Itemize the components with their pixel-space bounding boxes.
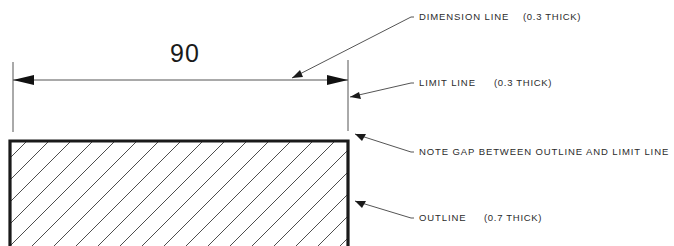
hatch-line xyxy=(208,131,323,246)
hatch-line xyxy=(252,131,367,246)
leader-arrow-icon-outline xyxy=(355,201,366,208)
hatch-line xyxy=(54,131,169,246)
callout-spec-limit-line: (0.3 THICK) xyxy=(494,77,552,88)
hatch-line xyxy=(0,131,37,246)
hatch-line xyxy=(142,131,257,246)
hatch-line xyxy=(0,131,103,246)
drawing-svg: 90 DIMENSION LINE(0.3 THICK)LIMIT LINE(0… xyxy=(0,0,674,246)
hatch-line xyxy=(186,131,301,246)
hatch-line xyxy=(164,131,279,246)
callout-outline: OUTLINE(0.7 THICK) xyxy=(355,201,542,223)
leader-line-dimension-line xyxy=(292,17,414,78)
technical-drawing-canvas: 90 DIMENSION LINE(0.3 THICK)LIMIT LINE(0… xyxy=(0,0,674,246)
hatch-line xyxy=(274,131,389,246)
hatch-line xyxy=(10,131,125,246)
callout-spec-outline: (0.7 THICK) xyxy=(484,212,542,223)
callout-label-limit-line: LIMIT LINE xyxy=(419,77,476,88)
dimension-value: 90 xyxy=(170,39,200,67)
dimension-arrow-left-icon xyxy=(13,75,34,85)
hatch-line xyxy=(0,131,15,246)
hatch-line xyxy=(230,131,345,246)
callout-label-note-gap: NOTE GAP BETWEEN OUTLINE AND LIMIT LINE xyxy=(419,146,669,157)
callout-dimension-line: DIMENSION LINE(0.3 THICK) xyxy=(292,11,581,78)
callout-spec-dimension-line: (0.3 THICK) xyxy=(523,11,581,22)
leader-arrow-icon-limit-line xyxy=(350,92,361,99)
callout-label-outline: OUTLINE xyxy=(419,212,466,223)
leader-arrow-icon-dimension-line xyxy=(292,70,303,78)
hatch-line xyxy=(98,131,213,246)
hatch-line xyxy=(32,131,147,246)
hatch-line xyxy=(0,131,81,246)
hatch-line xyxy=(318,131,433,246)
limit-lines xyxy=(13,60,348,132)
callout-label-dimension-line: DIMENSION LINE xyxy=(419,11,509,22)
callout-limit-line: LIMIT LINE(0.3 THICK) xyxy=(350,77,552,99)
dimension-arrow-right-icon xyxy=(327,75,348,85)
callout-note-gap: NOTE GAP BETWEEN OUTLINE AND LIMIT LINE xyxy=(355,134,669,157)
hatch-line xyxy=(296,131,411,246)
hatch-line xyxy=(76,131,191,246)
hatch-line xyxy=(120,131,235,246)
